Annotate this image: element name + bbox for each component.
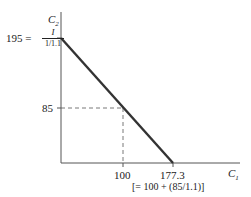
y-intercept-value: 195 = bbox=[6, 33, 31, 44]
x-axis-label: C1 bbox=[228, 168, 239, 182]
fraction-numerator: I bbox=[42, 28, 64, 39]
y-intercept-fraction: I 1/1.1 bbox=[42, 28, 64, 48]
y-tick-label-85: 85 bbox=[42, 103, 53, 114]
fraction-denominator: 1/1.1 bbox=[42, 39, 64, 48]
x-tick-label-100: 100 bbox=[114, 170, 131, 181]
chart-container: C2 C1 195 = I 1/1.1 85 100 177.3 [= 100 … bbox=[0, 0, 251, 197]
x-tick-label-177: 177.3 bbox=[160, 170, 185, 181]
budget-line bbox=[61, 38, 173, 163]
x-intercept-note: [= 100 + (85/1.1)] bbox=[132, 182, 204, 192]
chart-plot bbox=[0, 0, 251, 197]
